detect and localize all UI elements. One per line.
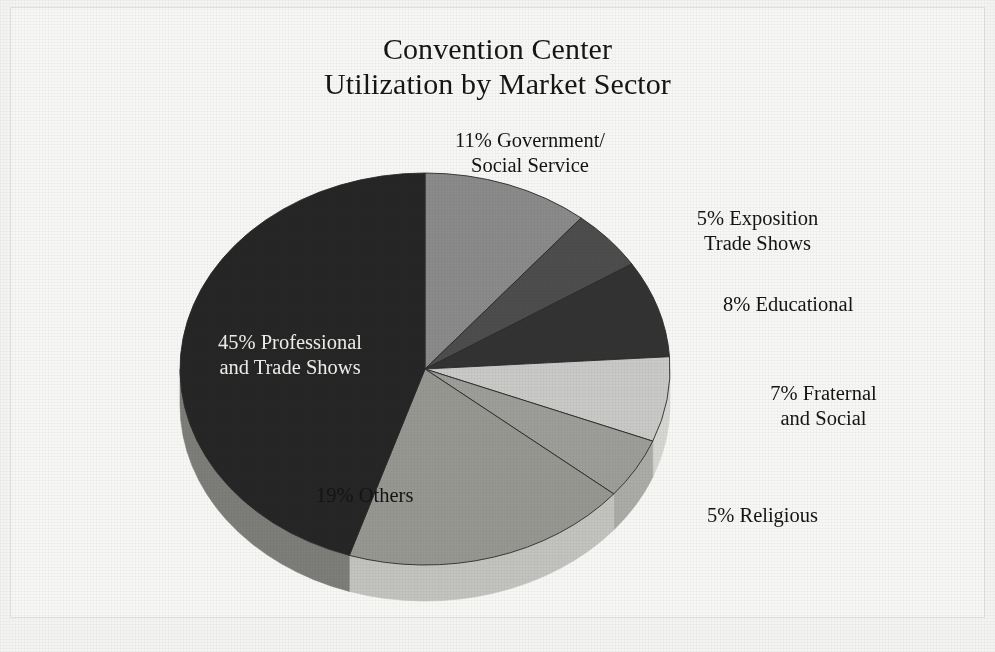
slice-label-fraternal: 7% Fraternal and Social xyxy=(716,381,931,431)
pie-chart: Convention Center Utilization by Market … xyxy=(0,0,995,652)
slice-label-exposition: 5% Exposition Trade Shows xyxy=(650,206,865,256)
slice-label-government: 11% Government/ Social Service xyxy=(415,128,645,178)
slice-label-religious: 5% Religious xyxy=(707,503,957,528)
slice-label-others: 19% Others xyxy=(316,483,536,508)
pie-svg xyxy=(0,0,995,652)
chart-page: Convention Center Utilization by Market … xyxy=(0,0,995,652)
slice-label-educational: 8% Educational xyxy=(723,292,973,317)
slice-label-professional: 45% Professional and Trade Shows xyxy=(150,330,430,380)
